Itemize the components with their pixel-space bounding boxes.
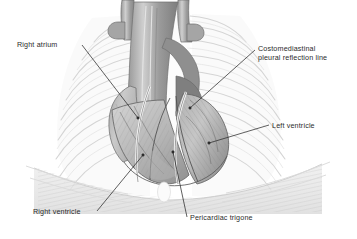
label-right-ventricle: Right ventricle	[33, 207, 81, 216]
label-costomediastinal-pleural-reflection-line: Costomediastinal pleural reflection line	[258, 44, 327, 62]
label-costomediastinal-line-2: pleural reflection line	[258, 53, 327, 62]
label-pericardiac-trigone-line-1: Pericardiac trigone	[190, 213, 253, 222]
label-right-ventricle-line-1: Right ventricle	[33, 207, 81, 216]
label-pericardiac-trigone: Pericardiac trigone	[190, 213, 253, 222]
label-right-atrium-line-1: Right atrium	[17, 40, 57, 49]
label-left-ventricle-line-1: Left ventricle	[272, 121, 315, 130]
label-left-ventricle: Left ventricle	[272, 121, 315, 130]
heart-thorax-illustration	[0, 0, 357, 239]
label-costomediastinal-line-1: Costomediastinal	[258, 44, 327, 53]
anatomical-figure: Right atrium Costomediastinal pleural re…	[0, 0, 357, 239]
label-right-atrium: Right atrium	[17, 40, 57, 49]
